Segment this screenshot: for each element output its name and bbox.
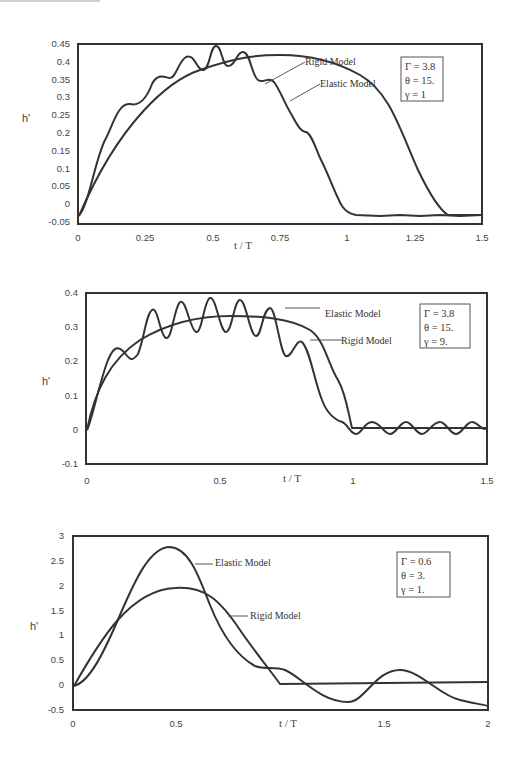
y-tick-label: 0	[59, 679, 64, 690]
x-tick-label: 0.5	[213, 475, 226, 486]
y-tick-label: 0.35	[52, 74, 71, 85]
y-tick-label: 1.5	[51, 605, 64, 616]
y-axis-label: h'	[22, 112, 30, 124]
y-tick-label: 0.45	[52, 38, 71, 49]
x-tick-label: 2	[485, 718, 490, 729]
x-tick-label: 0.25	[136, 232, 155, 243]
chart-2-gamma-9: 0.40.30.20.10-0.1 00.511.5 h' t / T Elas…	[0, 270, 516, 500]
y-tick-label: 0	[73, 424, 78, 435]
x-tick-label: 0.75	[271, 232, 290, 243]
y-tick-label: 1	[59, 629, 64, 640]
param-gamma-cap: Γ = 3.8	[424, 308, 454, 319]
parameter-box: Γ = 3.8 θ = 15. γ = 1	[401, 57, 443, 101]
y-tick-label: 0.3	[57, 91, 70, 102]
x-axis-label: t / T	[279, 717, 297, 729]
y-tick-label: 0.15	[52, 145, 71, 156]
y-tick-label: 0.05	[52, 180, 71, 191]
rigid-model-curve	[74, 588, 488, 686]
y-tick-labels: 0.40.30.20.10-0.1	[62, 287, 78, 469]
y-tick-label: 0.4	[57, 56, 70, 67]
param-theta: θ = 15.	[424, 322, 453, 333]
elastic-model-label: Elastic Model	[325, 308, 381, 319]
y-tick-label: 0.25	[52, 109, 71, 120]
x-tick-label: 0.5	[169, 718, 182, 729]
param-gamma: γ = 1.	[400, 584, 425, 595]
rigid-model-label: Rigid Model	[250, 610, 301, 621]
y-tick-label: 0.3	[65, 321, 78, 332]
rigid-model-label: Rigid Model	[305, 56, 356, 67]
parameter-box: Γ = 0.6 θ = 3. γ = 1.	[397, 552, 450, 597]
chart-3-gamma-cap-0-6: 32.521.510.50-0.5 00.51.52 h' t / T Elas…	[0, 520, 516, 760]
y-tick-label: 2	[59, 580, 64, 591]
y-tick-label: -0.1	[62, 458, 78, 469]
y-axis-label: h'	[42, 375, 50, 387]
y-tick-label: 0.5	[51, 654, 64, 665]
elastic-leader-line	[290, 84, 320, 101]
y-tick-label: 0.2	[65, 355, 78, 366]
parameter-box: Γ = 3.8 θ = 15. γ = 9.	[420, 304, 470, 348]
y-tick-label: 2.5	[51, 555, 64, 566]
y-tick-label: -0.5	[48, 704, 64, 715]
x-tick-labels: 00.250.50.7511.251.5	[75, 232, 488, 243]
y-tick-label: 0	[65, 198, 70, 209]
elastic-model-label: Elastic Model	[215, 557, 271, 568]
chart-1-gamma-1: 0.450.40.350.30.250.20.150.10.050-0.05 0…	[0, 0, 516, 250]
param-gamma-cap: Γ = 0.6	[401, 556, 431, 567]
y-axis-label: h'	[30, 620, 38, 632]
x-tick-label: 1.25	[406, 232, 425, 243]
x-tick-label: 0	[75, 232, 80, 243]
y-tick-labels: 0.450.40.350.30.250.20.150.10.050-0.05	[48, 38, 70, 227]
y-tick-labels: 32.521.510.50-0.5	[48, 530, 64, 715]
param-theta: θ = 15.	[405, 75, 434, 86]
elastic-model-label: Elastic Model	[320, 78, 376, 89]
x-axis-label: t / T	[234, 239, 252, 250]
param-gamma: γ = 1	[404, 89, 426, 100]
x-axis-label: t / T	[283, 472, 301, 484]
y-tick-label: 3	[59, 530, 64, 541]
x-tick-label: 0	[84, 475, 89, 486]
x-tick-label: 1	[350, 475, 355, 486]
x-tick-label: 1.5	[377, 718, 390, 729]
param-gamma: γ = 9.	[423, 336, 448, 347]
param-gamma-cap: Γ = 3.8	[405, 61, 435, 72]
param-theta: θ = 3.	[401, 570, 425, 581]
y-tick-label: 0.4	[65, 287, 78, 298]
x-tick-label: 0	[70, 718, 75, 729]
x-tick-label: 0.5	[206, 232, 219, 243]
x-tick-label: 1	[344, 232, 349, 243]
y-tick-label: 0.2	[57, 127, 70, 138]
x-tick-label: 1.5	[475, 232, 488, 243]
y-tick-label: 0.1	[57, 163, 70, 174]
y-tick-label: 0.1	[65, 390, 78, 401]
rigid-leader-line	[265, 62, 305, 84]
y-tick-label: -0.05	[48, 216, 70, 227]
x-tick-label: 1.5	[480, 475, 493, 486]
rigid-model-label: Rigid Model	[341, 335, 392, 346]
